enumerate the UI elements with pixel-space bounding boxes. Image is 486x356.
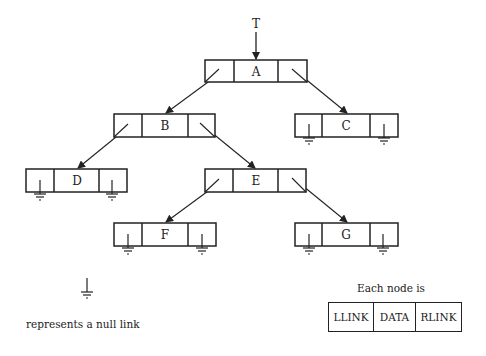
node-data: F [161, 228, 169, 242]
root-pointer: T [252, 17, 260, 59]
data-field: DATA [373, 303, 415, 331]
node-data: G [341, 228, 351, 242]
tree-node-c: C [295, 114, 398, 144]
tree-node-e: E [205, 169, 306, 192]
tree-node-f: F [114, 223, 216, 254]
node-data: C [341, 119, 350, 133]
node-data: E [252, 174, 261, 188]
node-data: D [72, 174, 82, 188]
node-format-legend: LLINK DATA RLINK [328, 302, 462, 332]
rlink-field: RLINK [415, 303, 461, 331]
llink-field: LLINK [329, 303, 373, 331]
node-data: A [251, 65, 261, 79]
tree-node-a: A [205, 60, 307, 82]
node-data: B [161, 119, 170, 133]
tree-node-d: D [26, 169, 127, 200]
root-pointer-label: T [252, 17, 260, 31]
node-format-caption: Each node is [357, 282, 425, 294]
null-link-legend-icon [81, 278, 93, 298]
tree-edges [78, 68, 347, 222]
tree-node-g: G [295, 223, 398, 254]
tree-node-b: B [114, 114, 215, 137]
null-link-caption: represents a null link [26, 318, 140, 330]
